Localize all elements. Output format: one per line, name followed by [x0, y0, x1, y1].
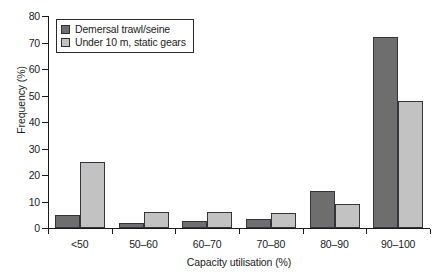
legend-item-label: Under 10 m, static gears [75, 37, 186, 48]
x-axis-title: Capacity utilisation (%) [48, 256, 430, 268]
bar [271, 213, 296, 228]
bar [80, 162, 105, 228]
bar [144, 212, 169, 228]
y-axis-tick-label: 0 [2, 223, 40, 233]
x-axis-tick-label: 70–80 [239, 238, 303, 250]
x-axis-tick [366, 229, 367, 234]
bar [207, 212, 232, 228]
x-axis-tick-label: 60–70 [175, 238, 239, 250]
x-axis-tick [239, 229, 240, 234]
legend-swatch-icon [61, 38, 70, 47]
x-axis-tick-label: <50 [48, 238, 112, 250]
legend-item: Under 10 m, static gears [61, 36, 186, 49]
bar [246, 219, 271, 228]
bar [55, 215, 80, 228]
bar [335, 204, 360, 228]
x-axis-tick [48, 229, 49, 234]
y-axis-label-slot: 20 [0, 170, 40, 180]
y-axis-tick-label: 10 [2, 197, 40, 207]
y-axis-label-slot: 0 [0, 223, 40, 233]
x-axis-tick [303, 229, 304, 234]
y-axis-title: Frequency (%) [15, 35, 27, 165]
legend-item-label: Demersal trawl/seine [75, 24, 170, 35]
legend-swatch-icon [61, 25, 70, 34]
bar [310, 191, 335, 228]
bar [373, 37, 398, 228]
legend-item: Demersal trawl/seine [61, 23, 186, 36]
x-axis-tick-label: 90–100 [366, 238, 430, 250]
y-axis-label-slot: 10 [0, 197, 40, 207]
bar [182, 221, 207, 228]
chart-legend: Demersal trawl/seineUnder 10 m, static g… [56, 19, 194, 53]
x-axis-tick-label: 80–90 [303, 238, 367, 250]
bar [398, 101, 423, 228]
x-axis-tick [430, 229, 431, 234]
x-axis-tick [175, 229, 176, 234]
bar [119, 223, 144, 228]
x-axis-tick [112, 229, 113, 234]
x-axis-tick-label: 50–60 [112, 238, 176, 250]
y-axis-label-slot: 80 [0, 11, 40, 21]
bar-chart: 01020304050607080 Frequency (%) <5050–60… [0, 0, 447, 276]
y-axis-tick-label: 80 [2, 11, 40, 21]
y-axis-tick-label: 20 [2, 170, 40, 180]
